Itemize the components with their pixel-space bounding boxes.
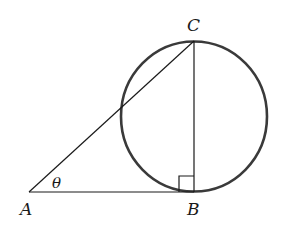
label-c: C: [187, 15, 200, 35]
angle-theta-label: θ: [52, 174, 61, 192]
segment-ac: [29, 41, 194, 192]
geometry-diagram: C A B θ: [0, 0, 283, 232]
label-a: A: [18, 199, 32, 219]
label-b: B: [186, 199, 200, 219]
